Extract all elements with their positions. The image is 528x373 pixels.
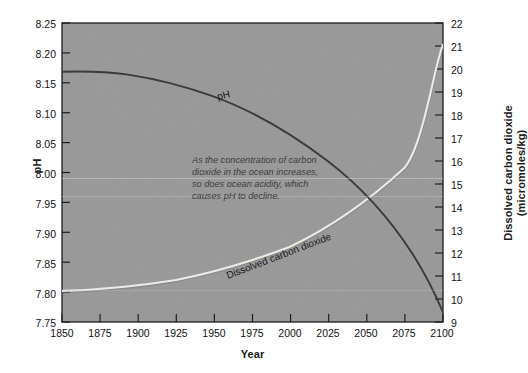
annotation-line-4: causes pH to decline. (192, 191, 280, 201)
annotation-line-2: dioxide in the ocean increases, (192, 167, 318, 177)
annotation-line-3: so does ocean acidity, which (192, 179, 308, 189)
annotation-line-1: As the concentration of carbon (191, 155, 317, 165)
